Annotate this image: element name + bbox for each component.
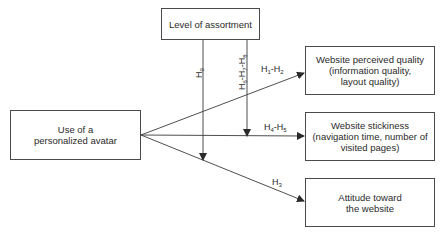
edge-label-h9: H9: [194, 68, 205, 78]
node-label-line1: Use of a: [58, 124, 93, 135]
node-personalized-avatar: Use of a personalized avatar: [10, 110, 141, 160]
node-label: Level of assortment: [169, 19, 252, 30]
edge-label-h6-h7-h8: H6-H7-H8: [237, 54, 248, 90]
node-attitude-toward-website: Attitude toward the website: [305, 178, 435, 227]
node-label-line2: personalized avatar: [34, 135, 117, 146]
arrow-h3: [141, 135, 304, 201]
node-level-of-assortment: Level of assortment: [161, 8, 260, 40]
edge-label-h4-h5: H4-H5: [264, 122, 287, 133]
edge-label-h1-h2: H1-H2: [261, 64, 284, 75]
node-label-line2: (information quality,: [329, 65, 411, 76]
node-website-perceived-quality: Website perceived quality (information q…: [305, 46, 435, 95]
node-label-line1: Website stickiness: [331, 120, 409, 131]
arrow-h4-h5: [141, 135, 304, 136]
edge-label-h3: H3: [272, 177, 282, 188]
node-label-line2: the website: [346, 203, 394, 214]
node-label-line3: visited pages): [341, 142, 400, 153]
node-website-stickiness: Website stickiness (navigation time, num…: [305, 112, 435, 161]
node-label-line1: Website perceived quality: [316, 54, 424, 65]
node-label-line3: layout quality): [341, 76, 400, 87]
node-label-line2: (navigation time, number of: [312, 131, 427, 142]
node-label-line1: Attitude toward: [338, 192, 401, 203]
